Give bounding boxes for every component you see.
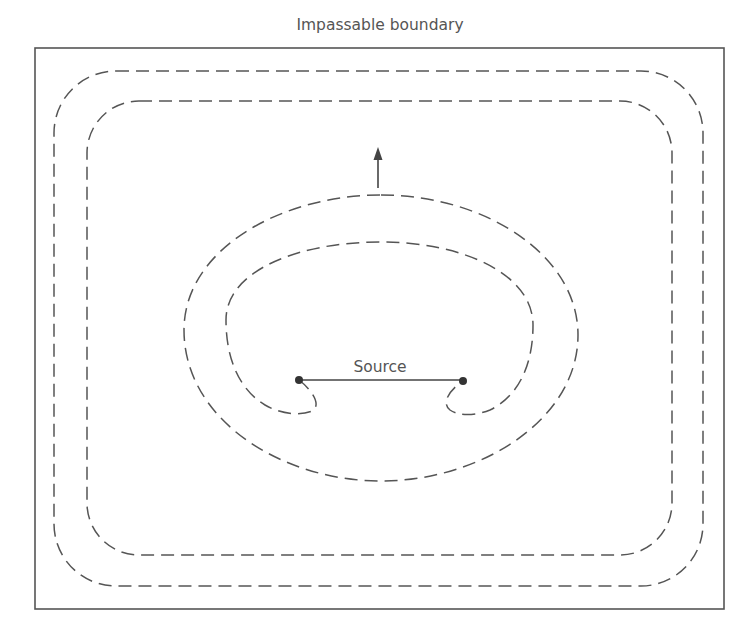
inner-boundary-contour — [87, 101, 672, 555]
diagram-canvas: Impassable boundary Source — [0, 0, 751, 642]
source-endpoint-left — [295, 376, 303, 384]
source-endpoint-right — [459, 377, 467, 385]
impassable-boundary — [35, 48, 724, 609]
boundary-title: Impassable boundary — [296, 16, 463, 34]
outer-boundary-contour — [54, 71, 703, 586]
expansion-arrow-head-icon — [374, 147, 383, 160]
inner-source-contour — [226, 242, 533, 415]
source-label: Source — [353, 358, 406, 376]
outer-source-contour — [184, 195, 578, 481]
